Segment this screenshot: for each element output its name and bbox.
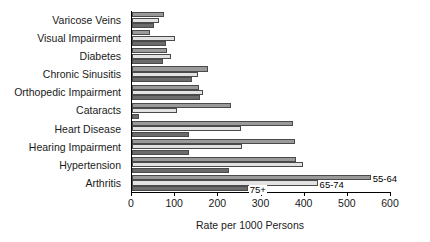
x-tick-label: 500	[338, 197, 356, 209]
x-tick	[131, 192, 132, 196]
x-tick-label: 600	[381, 197, 399, 209]
bar	[132, 162, 303, 167]
bar	[132, 66, 208, 71]
bar	[132, 103, 231, 108]
bar	[132, 139, 295, 144]
bar	[132, 168, 229, 173]
bar	[132, 114, 139, 119]
bar	[132, 23, 154, 28]
bar	[132, 36, 175, 41]
legend-label-65-74: 65-74	[319, 180, 345, 190]
bar-group	[132, 102, 390, 120]
x-tick	[347, 192, 348, 196]
x-tick-label: 300	[252, 197, 270, 209]
x-tick-label: 400	[295, 197, 313, 209]
bar-chart: Varicose Veins Visual Impairment Diabete…	[0, 0, 430, 242]
x-tick-label: 0	[128, 197, 134, 209]
bar	[132, 157, 296, 162]
plot-area	[131, 11, 390, 192]
x-tick-label: 100	[165, 197, 183, 209]
bar	[132, 144, 242, 149]
bar	[132, 150, 189, 155]
bar-group	[132, 11, 390, 29]
bar	[132, 59, 163, 64]
bar	[132, 77, 192, 82]
bar	[132, 48, 167, 53]
x-tick-label: 200	[209, 197, 227, 209]
x-tick	[304, 192, 305, 196]
bar	[132, 186, 248, 191]
bar-group	[132, 156, 390, 174]
bar-group	[132, 29, 390, 47]
category-label: Heart Disease	[0, 120, 126, 138]
category-label: Orthopedic Impairment	[0, 83, 126, 101]
bar	[132, 72, 198, 77]
bar	[132, 85, 199, 90]
bar	[132, 108, 177, 113]
bar	[132, 18, 159, 23]
bar-group	[132, 83, 390, 101]
bar	[132, 90, 203, 95]
bar	[132, 41, 166, 46]
category-label: Diabetes	[0, 47, 126, 65]
bar	[132, 126, 241, 131]
x-axis-title: Rate per 1000 Persons	[0, 219, 430, 231]
category-label: Varicose Veins	[0, 11, 126, 29]
category-label: Cataracts	[0, 101, 126, 119]
bar-group	[132, 47, 390, 65]
bar	[132, 132, 189, 137]
legend-label-75plus: 75+	[249, 185, 267, 195]
category-label: Arthritis	[0, 174, 126, 192]
legend-label-55-64: 55-64	[372, 174, 398, 184]
bar	[132, 95, 200, 100]
bar	[132, 30, 150, 35]
category-label: Visual Impairment	[0, 29, 126, 47]
bar-group	[132, 138, 390, 156]
bar-group	[132, 65, 390, 83]
x-tick	[390, 192, 391, 196]
category-label: Chronic Sinusitis	[0, 65, 126, 83]
bar	[132, 54, 171, 59]
x-tick	[217, 192, 218, 196]
bar	[132, 121, 293, 126]
bar-group	[132, 120, 390, 138]
category-label: Hypertension	[0, 156, 126, 174]
category-label: Hearing Impairment	[0, 138, 126, 156]
bar	[132, 12, 164, 17]
category-axis-labels: Varicose Veins Visual Impairment Diabete…	[0, 11, 126, 192]
bar	[132, 180, 318, 185]
x-tick	[174, 192, 175, 196]
